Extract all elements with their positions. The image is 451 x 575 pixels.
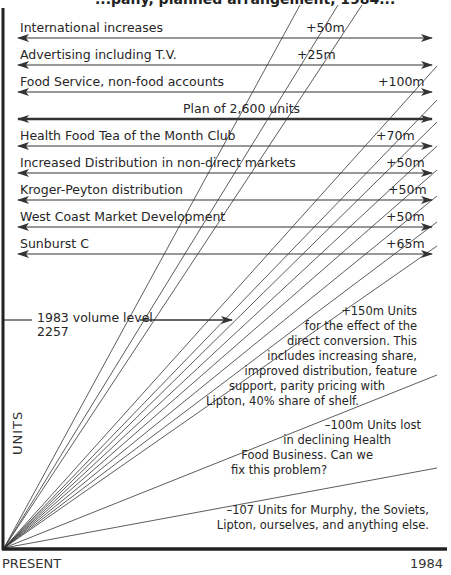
row-value-international: +50m [306, 20, 345, 35]
row-label-sunburst-c: Sunburst C [20, 236, 89, 251]
row-label-kroger-peyton: Kroger-Peyton distribution [20, 182, 183, 197]
y-axis-label: UNITS [10, 411, 25, 455]
row-value-health-food-tea: +70m [376, 128, 415, 143]
row-label-advertising: Advertising including T.V. [20, 47, 177, 62]
row-value-increased-distribution: +50m [386, 155, 425, 170]
row-label-increased-distribution: Increased Distribution in non-direct mar… [20, 155, 296, 170]
note-line: direct conversion. This [206, 334, 417, 349]
note-line: –100m Units lost [231, 418, 421, 433]
row-value-kroger-peyton: +50m [388, 182, 427, 197]
note-direct-conversion: +150m Units for the effect of the direct… [206, 304, 417, 409]
row-value-food-service: +100m [378, 74, 425, 89]
row-label-west-coast: West Coast Market Development [20, 209, 225, 224]
row-label-international: International increases [20, 20, 163, 35]
note-line: Food Business. Can we [231, 448, 373, 463]
note-line: includes increasing share, [206, 349, 417, 364]
note-line: fix this problem? [231, 463, 327, 478]
note-line: support, parity pricing with [206, 379, 385, 394]
note-health-food-decline: –100m Units lost in declining Health Foo… [231, 418, 421, 478]
row-value-west-coast: +50m [386, 209, 425, 224]
note-line: Lipton, ourselves, and anything else. [217, 518, 429, 533]
note-line: –107 Units for Murphy, the Soviets, [217, 503, 429, 518]
row-label-food-service: Food Service, non-food accounts [20, 74, 224, 89]
baseline-label: 1983 volume level 2257 [37, 311, 153, 339]
note-line: Lipton, 40% share of shelf. [206, 394, 359, 409]
row-label-health-food-tea: Health Food Tea of the Month Club [20, 128, 236, 143]
note-line: +150m Units [206, 304, 417, 319]
note-line: in declining Health [231, 433, 391, 448]
note-line: improved distribution, feature [206, 364, 417, 379]
row-value-sunburst-c: +65m [386, 236, 425, 251]
row-value-advertising: +25m [297, 47, 336, 62]
baseline-value: 2257 [37, 325, 153, 339]
plan-label: Plan of 2,600 units [183, 101, 300, 116]
x-axis-end-label: 1984 [410, 556, 443, 571]
note-line: for the effect of the [206, 319, 417, 334]
x-axis-start-label: PRESENT [2, 556, 61, 571]
note-murphy-soviets: –107 Units for Murphy, the Soviets, Lipt… [217, 503, 429, 533]
baseline-label-text: 1983 volume level [37, 311, 153, 325]
